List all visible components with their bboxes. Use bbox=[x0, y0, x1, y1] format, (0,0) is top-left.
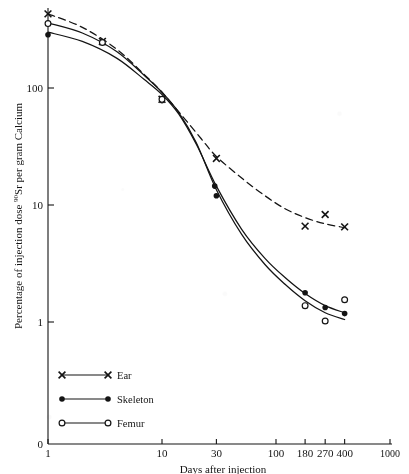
strontium-retention-chart: 110100 110301001802704001000 0 EarSkelet… bbox=[0, 0, 409, 474]
datapoint-skeleton-180 bbox=[302, 290, 308, 296]
series-curves bbox=[48, 14, 345, 320]
x-tick-label-180: 180 bbox=[297, 447, 314, 459]
x-tick-label-30: 30 bbox=[211, 447, 223, 459]
curve-skeleton bbox=[48, 32, 345, 313]
datapoint-skeleton-29 bbox=[212, 183, 218, 189]
y-axis-ticks: 110100 bbox=[27, 82, 55, 328]
legend-marker-start bbox=[59, 420, 65, 426]
legend-marker-end bbox=[105, 420, 111, 426]
legend-item-femur: Femur bbox=[59, 418, 145, 429]
datapoint-femur-3 bbox=[99, 40, 105, 46]
curve-femur bbox=[48, 23, 345, 320]
datapoint-skeleton-270 bbox=[322, 305, 328, 311]
y-title-text-before: Percentage of injection dose bbox=[12, 202, 24, 329]
axis-lines bbox=[48, 8, 392, 444]
datapoint-skeleton-30 bbox=[214, 193, 220, 199]
y-tick-label-1: 1 bbox=[38, 316, 44, 328]
x-tick-label-270: 270 bbox=[317, 447, 334, 459]
y-title-text-after: Sr per gram Calcium bbox=[12, 103, 24, 195]
x-tick-label-1: 1 bbox=[45, 447, 51, 459]
x-tick-label-10: 10 bbox=[157, 447, 169, 459]
legend-label-ear: Ear bbox=[117, 370, 132, 381]
legend-marker-start bbox=[59, 396, 65, 402]
datapoint-femur-270 bbox=[322, 318, 328, 324]
datapoint-femur-10 bbox=[159, 96, 165, 102]
y-axis-title: Percentage of injection dose 90Sr per gr… bbox=[12, 103, 24, 329]
y-tick-label-10: 10 bbox=[32, 199, 44, 211]
datapoint-femur-1 bbox=[45, 21, 51, 27]
datapoint-skeleton-1 bbox=[45, 32, 51, 38]
x-tick-label-100: 100 bbox=[268, 447, 285, 459]
legend: EarSkeletonFemur bbox=[59, 370, 155, 429]
y-tick-label-100: 100 bbox=[27, 82, 44, 94]
x-axis-title: Days after injection bbox=[180, 463, 267, 474]
x-tick-label-400: 400 bbox=[336, 447, 353, 459]
datapoint-skeleton-400 bbox=[342, 311, 348, 317]
y-axis-origin-label: 0 bbox=[38, 438, 44, 450]
legend-item-ear: Ear bbox=[59, 370, 132, 381]
x-tick-label-1000: 1000 bbox=[380, 448, 400, 459]
legend-label-femur: Femur bbox=[117, 418, 145, 429]
legend-item-skeleton: Skeleton bbox=[59, 394, 154, 405]
datapoint-femur-180 bbox=[302, 303, 308, 309]
series-markers bbox=[45, 10, 348, 323]
legend-marker-end bbox=[105, 396, 111, 402]
datapoint-femur-400 bbox=[342, 297, 348, 303]
legend-label-skeleton: Skeleton bbox=[117, 394, 154, 405]
x-axis-ticks: 110301001802704001000 bbox=[45, 439, 400, 459]
figure-container: 110100 110301001802704001000 0 EarSkelet… bbox=[0, 0, 409, 474]
